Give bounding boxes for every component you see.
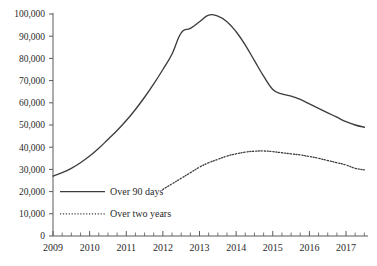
- y-axis-tick-label: 80,000: [19, 54, 45, 64]
- y-axis-tick-marks: [49, 14, 53, 236]
- y-axis-tick-label: 20,000: [19, 187, 45, 197]
- y-axis-tick-label: 70,000: [19, 76, 45, 86]
- y-axis-tick-label: 0: [40, 231, 45, 241]
- y-axis-tick-label: 60,000: [19, 98, 45, 108]
- x-axis-tick-label: 2013: [190, 242, 210, 253]
- y-axis-tick-label: 50,000: [19, 120, 45, 130]
- x-axis-tick-label: 2012: [153, 242, 173, 253]
- y-axis-tick-label: 40,000: [19, 143, 45, 153]
- y-axis-tick-label: 30,000: [19, 165, 45, 175]
- x-axis-tick-label: 2009: [43, 242, 63, 253]
- series-line-over-90-days: [53, 15, 364, 177]
- x-axis-tick-label: 2011: [116, 242, 136, 253]
- x-axis-tick-label: 2016: [299, 242, 319, 253]
- chart-plot-area: 010,00020,00030,00040,00050,00060,00070,…: [0, 0, 377, 266]
- y-axis-tick-labels: 010,00020,00030,00040,00050,00060,00070,…: [14, 9, 45, 241]
- y-axis-tick-label: 100,000: [14, 9, 45, 19]
- x-axis-minor-tick-marks: [62, 233, 364, 237]
- x-axis-tick-label: 2017: [336, 242, 356, 253]
- legend-label-over-two-years: Over two years: [110, 208, 171, 219]
- x-axis-tick-marks: [53, 231, 346, 236]
- legend-label-over-90-days: Over 90 days: [110, 186, 163, 197]
- y-axis-tick-label: 10,000: [19, 209, 45, 219]
- x-axis-tick-label: 2014: [226, 242, 246, 253]
- x-axis-tick-label: 2010: [80, 242, 100, 253]
- line-chart: 010,00020,00030,00040,00050,00060,00070,…: [0, 0, 377, 266]
- y-axis-tick-label: 90,000: [19, 32, 45, 42]
- series-line-over-two-years: [163, 151, 364, 189]
- chart-legend: Over 90 days Over two years: [60, 186, 171, 219]
- x-axis-tick-label: 2015: [263, 242, 283, 253]
- x-axis-tick-labels: 200920102011201220132014201520162017: [43, 242, 356, 253]
